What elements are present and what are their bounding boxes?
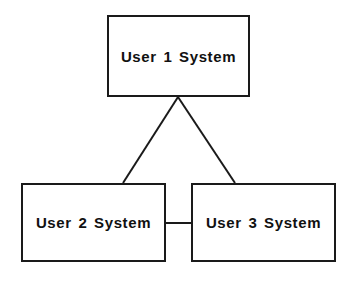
diagram-canvas: User 1 System User 2 System User 3 Syste… [0,0,352,283]
node-user-3-system-label: User 3 System [206,215,321,230]
node-user-3-system[interactable]: User 3 System [191,183,336,262]
node-user-2-system[interactable]: User 2 System [21,183,166,262]
edge-user1-user3 [178,97,235,183]
node-user-1-system[interactable]: User 1 System [107,15,250,97]
edge-user1-user2 [123,97,178,183]
node-user-1-system-label: User 1 System [121,49,236,64]
node-user-2-system-label: User 2 System [36,215,151,230]
